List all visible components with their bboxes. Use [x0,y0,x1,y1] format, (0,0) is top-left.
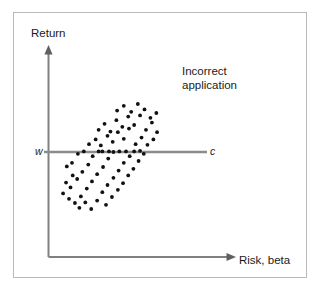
scatter-point [132,150,136,154]
reference-line-right-label: c [210,145,215,157]
scatter-point [138,149,142,153]
scatter-point [76,152,80,156]
scatter-point [116,130,120,134]
figure-container: Return Risk, beta Incorrect application … [0,0,324,290]
scatter-point [86,163,90,167]
plot-canvas [0,0,324,290]
scatter-point [128,154,132,158]
scatter-point [70,161,74,165]
y-axis-arrow-icon [44,45,52,55]
scatter-point [97,128,101,132]
scatter-point [94,138,98,142]
scatter-point [117,169,121,173]
scatter-point [150,121,154,125]
y-axis-label: Return [31,27,66,41]
scatter-point [112,176,116,180]
scatter-point [106,134,110,138]
scatter-point [77,206,81,210]
scatter-point [99,144,103,148]
scatter-point [127,127,131,131]
scatter-point [95,172,99,176]
scatter-point [71,174,75,178]
scatter-point [142,152,146,156]
scatter-point [91,154,95,158]
scatter-point [136,102,140,106]
scatter-point [114,118,118,122]
scatter-point [126,174,130,178]
scatter-point [143,108,147,112]
scatter-point [132,123,136,127]
scatter-point [61,192,65,196]
annotation-line-2: application [182,79,237,93]
scatter-point [134,142,138,146]
scatter-point [67,197,71,201]
scatter-point [117,150,121,154]
scatter-point [83,201,87,205]
scatter-point [155,130,159,134]
scatter-point [120,125,124,129]
scatter-point [101,165,105,169]
reference-line-left-label: w [35,145,43,157]
scatter-point [104,203,108,207]
scatter-point [121,181,125,185]
scatter-point [73,201,77,205]
scatter-point [82,150,86,154]
scatter-point [103,122,107,126]
annotation-incorrect-application: Incorrect application [182,65,237,92]
x-axis-label: Risk, beta [239,254,290,268]
scatter-point [97,150,101,154]
scatter-point [132,167,136,171]
scatter-point [100,190,104,194]
scatter-point [100,150,104,154]
scatter-point [122,137,126,141]
annotation-line-1: Incorrect [182,65,237,79]
scatter-point [146,143,150,147]
x-axis-arrow-icon [227,253,237,261]
scatter-point [129,110,133,114]
scatter-point [79,195,83,199]
scatter-point [115,109,119,113]
scatter-point [109,130,113,134]
scatter-point [144,128,148,132]
scatter-point [126,115,130,119]
scatter-point [64,181,68,185]
scatter-point [122,161,126,165]
scatter-point [69,186,73,190]
scatter-point [151,138,155,142]
scatter-point [124,150,128,154]
scatter-point [122,104,126,108]
scatter-point [110,195,114,199]
scatter-point [87,142,91,146]
scatter-points-layer [61,102,159,211]
scatter-point [95,199,99,203]
scatter-point [116,188,120,192]
scatter-point [65,165,69,169]
scatter-point [89,207,93,211]
scatter-point [85,187,89,191]
scatter-point [107,150,111,154]
x-axis [49,253,237,261]
scatter-point [111,140,115,144]
scatter-point [80,170,84,174]
scatter-point [90,180,94,184]
scatter-point [106,183,110,187]
scatter-point [140,136,144,140]
scatter-point [112,150,116,154]
scatter-point [154,111,158,115]
scatter-point [137,159,141,163]
scatter-point [138,114,142,118]
scatter-point [149,116,153,120]
scatter-point [75,177,79,181]
scatter-point [106,157,110,161]
